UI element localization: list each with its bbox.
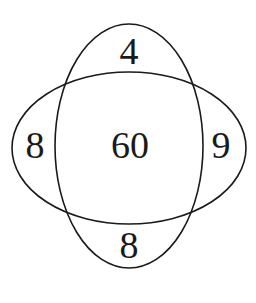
region-right-label: 9 [212,124,231,166]
region-left-label: 8 [26,124,45,166]
region-bottom-label: 8 [120,224,139,266]
region-center-label: 60 [111,124,149,166]
venn-diagram: 4 8 60 9 8 [0,0,256,303]
region-top-label: 4 [120,30,139,72]
